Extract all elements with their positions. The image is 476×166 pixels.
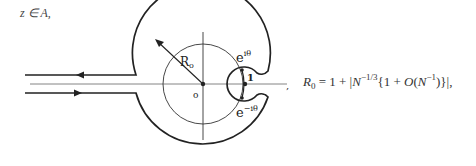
upper-point-label: eiθ (236, 49, 251, 65)
origin-label: o (193, 90, 198, 100)
lower-point-label: e−iθ (236, 104, 258, 120)
origin-point (201, 82, 205, 86)
radius-label: Ro (180, 55, 194, 70)
contour-path (25, 0, 270, 144)
arrow-left-icon (76, 72, 84, 79)
point-one-label: 1 (247, 72, 254, 83)
separator-comma: , (286, 80, 289, 91)
arrow-right-icon (74, 90, 82, 97)
radius-formula: R0 = 1 + |N−1/3{1 + O(N−1)}|, (303, 72, 452, 91)
